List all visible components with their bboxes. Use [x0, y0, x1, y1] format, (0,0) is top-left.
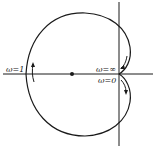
label-omega-zero: ω=0 [98, 76, 116, 85]
label-omega-one: ω=1 [6, 65, 24, 74]
critical-point-dot [70, 72, 74, 76]
label-omega-infinity: ω=∞ [96, 65, 116, 74]
nyquist-diagram: ω=1 ω=∞ ω=0 [0, 0, 156, 150]
arrow-up-icon [31, 62, 35, 82]
